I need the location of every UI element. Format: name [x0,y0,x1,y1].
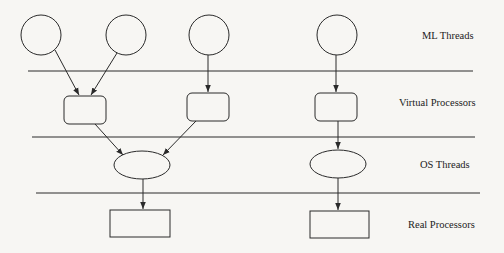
virtual-processor-node-2 [187,93,229,121]
os-thread-node-2 [310,150,366,178]
ml-thread-node-2 [106,15,146,55]
real-processor-node-2 [310,211,369,238]
edge-mlt2-vp1 [91,53,117,95]
virtual-processor-node-1 [64,96,106,124]
layer-label-virtual-processors: Virtual Processors [399,97,476,108]
edge-mlt1-vp1 [55,50,79,95]
edge-vp2-ost1 [163,121,196,155]
os-thread-node-1 [114,151,170,179]
thread-layer-diagram: ML Threads Virtual Processors OS Threads… [0,0,504,253]
real-processor-node-1 [110,210,170,237]
ml-thread-node-4 [317,15,357,55]
layer-label-ml-threads: ML Threads [422,30,474,41]
ml-thread-node-3 [189,15,229,55]
virtual-processor-node-3 [315,93,357,121]
layer-label-os-threads: OS Threads [420,159,470,170]
layer-label-real-processors: Real Processors [408,219,475,230]
edge-vp1-ost1 [95,124,123,155]
ml-thread-node-1 [21,15,61,55]
